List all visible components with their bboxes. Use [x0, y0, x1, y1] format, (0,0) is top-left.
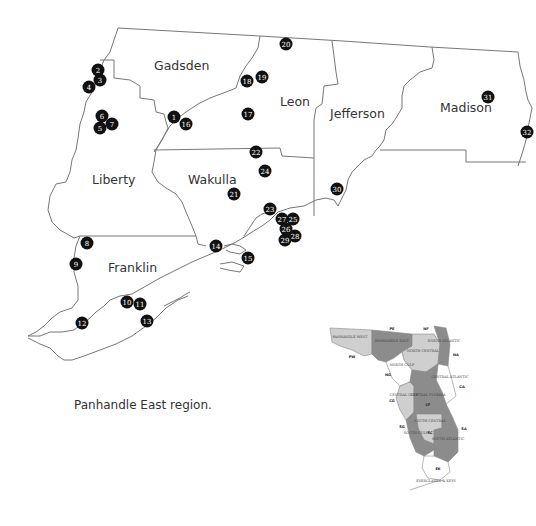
site-marker-17: 17: [242, 108, 255, 121]
site-marker-27: 27: [276, 213, 289, 226]
inset-code-pw: PW: [349, 355, 356, 359]
county-label-wakulla: Wakulla: [188, 172, 237, 187]
ochlockonee-bay: [224, 244, 246, 254]
inset-code-sa: SA: [461, 427, 467, 431]
inset-code-cg: CG: [389, 399, 395, 403]
site-marker-32: 32: [521, 126, 534, 139]
site-marker-label: 32: [523, 129, 532, 137]
inset-code-na: NA: [453, 353, 459, 357]
inset-label-south-atlantic: SOUTH ATLANTIC: [432, 437, 465, 441]
site-marker-29: 29: [279, 234, 292, 247]
inset-region-panhandle-west: [330, 328, 372, 356]
site-marker-8: 8: [81, 237, 94, 250]
site-marker-label: 1: [172, 114, 176, 122]
site-marker-label: 16: [182, 121, 191, 129]
site-marker-label: 11: [136, 301, 145, 309]
site-marker-label: 17: [244, 111, 253, 119]
county-label-franklin: Franklin: [108, 260, 157, 275]
inset-label-south-gulf: SOUTH GULF: [404, 431, 429, 435]
site-marker-3: 3: [94, 74, 107, 87]
site-marker-10: 10: [121, 296, 134, 309]
site-marker-label: 14: [212, 243, 221, 251]
site-marker-label: 13: [143, 318, 152, 326]
inset-label-south-central: SOUTH CENTRAL: [414, 419, 447, 423]
site-marker-16: 16: [180, 118, 193, 131]
inset-label-central-florida: CENTRAL FLORIDA: [410, 393, 446, 397]
site-marker-label: 19: [258, 74, 267, 82]
site-marker-label: 6: [100, 113, 105, 121]
site-marker-4: 4: [83, 81, 96, 94]
florida-inset-map: PANHANDLE WEST PANHANDLE EAST NORTH CENT…: [330, 326, 469, 490]
site-marker-23: 23: [264, 203, 277, 216]
inset-code-ng: NG: [385, 373, 391, 377]
gadsden-leon-border: [154, 36, 260, 152]
inset-label-panhandle-east: PANHANDLE EAST: [375, 339, 410, 343]
jefferson-madison-border: [338, 47, 434, 206]
site-marker-label: 31: [484, 94, 493, 102]
county-labels: Gadsden Leon Jefferson Madison Liberty W…: [92, 58, 492, 275]
site-marker-13: 13: [141, 315, 154, 328]
site-marker-18: 18: [241, 75, 254, 88]
site-marker-label: 22: [252, 149, 261, 157]
alligator-point: [220, 262, 244, 272]
site-marker-21: 21: [228, 188, 241, 201]
site-marker-label: 3: [98, 77, 102, 85]
site-marker-label: 28: [291, 233, 300, 241]
site-marker-label: 4: [87, 84, 92, 92]
inset-label-everglades-keys: EVERGLADES & KEYS: [416, 479, 456, 483]
inset-code-sc: SC: [427, 431, 433, 435]
site-marker-22: 22: [250, 146, 263, 159]
site-marker-30: 30: [331, 183, 344, 196]
inset-code-sg: SG: [399, 425, 405, 429]
site-marker-label: 7: [110, 121, 114, 129]
site-marker-12: 12: [76, 317, 89, 330]
site-marker-label: 18: [243, 78, 252, 86]
inset-label-north-central: NORTH CENTRAL: [407, 349, 440, 353]
liberty-franklin-border: [80, 236, 206, 246]
inset-code-ek: EK: [435, 467, 440, 471]
site-marker-label: 15: [244, 255, 253, 263]
site-marker-1: 1: [168, 111, 181, 124]
site-marker-label: 21: [230, 191, 239, 199]
county-label-leon: Leon: [280, 94, 310, 109]
region-map: Gadsden Leon Jefferson Madison Liberty W…: [0, 0, 536, 526]
site-marker-label: 12: [78, 320, 87, 328]
site-marker-15: 15: [242, 252, 255, 265]
county-label-liberty: Liberty: [92, 172, 136, 187]
site-marker-24: 24: [259, 165, 272, 178]
map-caption: Panhandle East region.: [74, 398, 212, 412]
liberty-west-border: [48, 182, 80, 238]
site-marker-label: 24: [261, 168, 270, 176]
inset-label-central-atlantic: CENTRAL ATLANTIC: [431, 375, 468, 379]
site-marker-11: 11: [134, 298, 147, 311]
site-marker-label: 30: [333, 186, 342, 194]
state-line: [118, 28, 518, 52]
site-marker-label: 29: [281, 237, 290, 245]
site-marker-31: 31: [482, 91, 495, 104]
inset-code-ca: CA: [459, 385, 465, 389]
site-marker-9: 9: [70, 258, 83, 271]
inset-label-north-gulf: NORTH GULF: [390, 363, 415, 367]
inset-code-pe: PE: [389, 327, 395, 331]
site-marker-label: 5: [98, 125, 102, 133]
leon-wakulla-border: [154, 148, 314, 158]
site-marker-7: 7: [106, 118, 119, 131]
inset-code-nf: NF: [423, 327, 429, 331]
inset-label-north-atlantic: NORTH ATLANTIC: [428, 339, 461, 343]
site-marker-label: 9: [74, 261, 78, 269]
site-marker-label: 20: [282, 41, 291, 49]
site-marker-20: 20: [280, 38, 293, 51]
site-marker-14: 14: [210, 240, 223, 253]
site-marker-label: 23: [266, 206, 275, 214]
site-marker-label: 25: [289, 216, 298, 224]
site-marker-label: 27: [278, 216, 287, 224]
site-marker-label: 8: [85, 240, 89, 248]
site-marker-label: 2: [96, 67, 100, 75]
inset-code-cf: CF: [425, 403, 431, 407]
site-marker-label: 10: [123, 299, 132, 307]
county-label-jefferson: Jefferson: [329, 106, 385, 121]
dog-island: [164, 292, 190, 306]
site-marker-5: 5: [94, 122, 107, 135]
madison-east-border: [518, 52, 532, 166]
gadsden-west-border: [66, 28, 118, 182]
